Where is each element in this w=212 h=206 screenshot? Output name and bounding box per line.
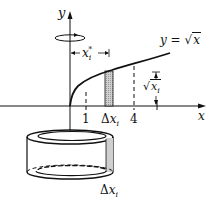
shell-method-diagram: y x y = √x xi* √xi 1 4 Δxi Δxi (0, 0, 212, 206)
x-axis-label: x (198, 110, 205, 122)
approximating-strip (105, 71, 113, 106)
tick-label-1: 1 (82, 113, 90, 125)
curve-label: y = √x (160, 34, 201, 46)
strip-delta: Δ (101, 112, 110, 126)
shell-sub: i (115, 190, 118, 199)
tick-label-4: 4 (130, 113, 138, 125)
sample-point-label: xi* (82, 46, 92, 62)
height-label: √xi (143, 81, 161, 95)
strip-sub: i (116, 119, 119, 128)
curve-label-prefix: y = (160, 33, 184, 47)
sample-sup: * (88, 45, 92, 54)
curve-radicand: x (192, 32, 201, 47)
x-axis (0, 104, 206, 109)
sample-sub: i (89, 53, 92, 62)
strip-width-label: Δxi (101, 113, 119, 128)
x-axis-arrow-icon (198, 104, 206, 109)
height-radical: √ (143, 80, 150, 93)
diagram-graphics (0, 0, 212, 206)
y-axis-arrow-icon (68, 11, 73, 19)
y-axis-label: y (58, 6, 65, 19)
cylindrical-shell (27, 130, 113, 179)
shell-thickness-label: Δxi (100, 184, 118, 199)
y-axis (68, 11, 73, 106)
height-sub: i (157, 86, 160, 95)
shell-delta: Δ (100, 183, 109, 197)
curve-radical: √ (184, 33, 192, 47)
